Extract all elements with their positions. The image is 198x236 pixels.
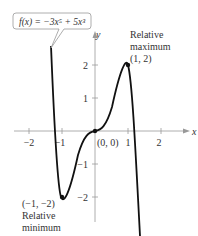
x-tick-label: 1 xyxy=(126,137,131,148)
max-label-line2: maximum xyxy=(130,41,171,52)
y-tick-label: −2 xyxy=(77,192,88,203)
max-label-line1: Relative xyxy=(130,29,164,40)
min-label-line3: minimum xyxy=(22,222,61,233)
y-tick-label: −1 xyxy=(77,159,88,170)
function-label: f(x) = −3x⁵ + 5x³ xyxy=(19,17,85,28)
origin-point xyxy=(93,129,97,133)
function-callout: f(x) = −3x⁵ + 5x³ xyxy=(13,13,91,48)
max-label-line3: (1, 2) xyxy=(130,53,152,65)
min-point xyxy=(60,195,64,199)
y-tick-label: 2 xyxy=(83,60,88,71)
y-axis-label: y xyxy=(95,29,101,40)
min-label-line1: (−1, −2) xyxy=(22,198,55,210)
function-graph: −2 −1 1 2 2 1 −1 −2 x y Relative maximum… xyxy=(0,0,198,236)
x-axis-arrow-icon xyxy=(183,129,190,134)
min-label-line2: Relative xyxy=(22,210,56,221)
x-tick-label: −2 xyxy=(24,137,35,148)
origin-label: (0, 0) xyxy=(97,137,119,149)
x-tick-label: 2 xyxy=(157,137,162,148)
y-tick-label: 1 xyxy=(83,93,88,104)
x-axis-label: x xyxy=(191,126,197,137)
